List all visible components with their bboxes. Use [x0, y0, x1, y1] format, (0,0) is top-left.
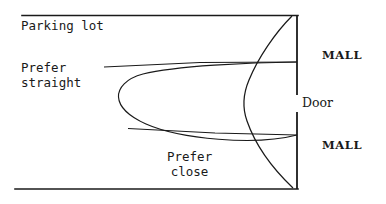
prefer-close-path-curve	[244, 16, 293, 188]
mall-divider-group	[104, 62, 297, 135]
prefer-close-label: Prefer close	[167, 150, 212, 180]
lot-boundary-group	[15, 16, 298, 190]
parking-lot-label: Parking lot	[21, 19, 104, 34]
mall-lower-label: MALL	[322, 139, 362, 153]
mall-upper-label: MALL	[322, 49, 362, 63]
prefer-straight-label: Prefer straight	[21, 61, 81, 91]
mall-divider-lower	[128, 129, 297, 136]
parking-lot-diagram: Parking lot Prefer straight Prefer close…	[0, 0, 386, 204]
prefer-straight-path-curve	[118, 62, 297, 140]
door-label: Door	[302, 96, 333, 111]
